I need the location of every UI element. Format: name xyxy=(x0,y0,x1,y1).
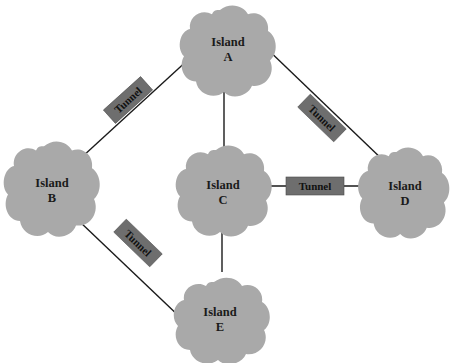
island-e-label: Island xyxy=(203,305,236,319)
island-d-label: Island xyxy=(388,179,421,193)
network-diagram: Island A Island B Island C Island D Isla… xyxy=(0,0,458,363)
island-d-letter: D xyxy=(400,194,409,208)
tunnel-a-b: Tunnel xyxy=(103,77,152,124)
island-b-label: Island xyxy=(35,176,68,190)
tunnel-c-d-label: Tunnel xyxy=(299,180,332,192)
island-c-label: Island xyxy=(206,178,239,192)
island-a-label: Island xyxy=(211,35,244,49)
island-a-letter: A xyxy=(223,50,232,64)
link-a-b xyxy=(82,58,190,157)
island-b-letter: B xyxy=(48,191,56,205)
island-c-letter: C xyxy=(218,193,227,207)
island-e-letter: E xyxy=(216,320,224,334)
tunnel-c-d: Tunnel xyxy=(286,177,344,195)
tunnel-b-e: Tunnel xyxy=(114,219,162,267)
link-a-d xyxy=(262,44,385,162)
